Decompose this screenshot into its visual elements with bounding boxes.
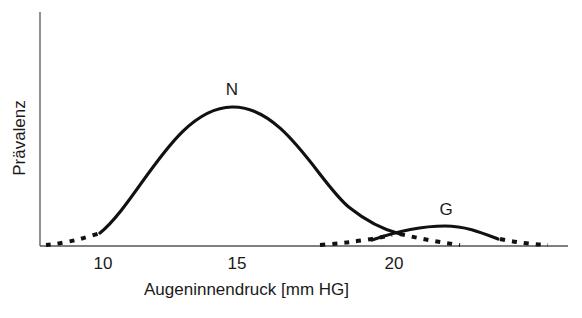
x-axis-label: Augeninnendruck [mm HG] xyxy=(144,280,349,300)
x-tick-20: 20 xyxy=(385,254,404,274)
curve-g-right-tail xyxy=(500,239,548,245)
prevalence-chart xyxy=(0,0,582,318)
y-axis-label: Prävalenz xyxy=(10,98,30,178)
x-tick-10: 10 xyxy=(94,254,113,274)
curve-n xyxy=(100,107,400,234)
curve-g xyxy=(372,226,498,240)
curve-g-label: G xyxy=(439,200,452,220)
curve-n-label: N xyxy=(226,80,238,100)
x-tick-15: 15 xyxy=(228,254,247,274)
curve-n-right-tail xyxy=(400,234,460,245)
curve-n-left-tail xyxy=(46,233,100,245)
